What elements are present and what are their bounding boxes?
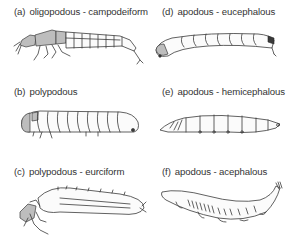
hemicephalous-larva-illustration xyxy=(148,98,295,158)
panel-b-polypodous: (b)polypodous xyxy=(0,80,147,160)
panel-label: (f)apodous - acephalous xyxy=(162,166,267,177)
panel-c-eurciform: (c)polypodous - eurciform xyxy=(0,160,147,240)
panel-e-hemicephalous: (e)apodous - hemicephalous xyxy=(148,80,295,160)
panel-label: (a)oligopodous - campodeiform xyxy=(14,6,148,17)
eurciform-larva-illustration xyxy=(0,178,147,238)
panel-a-campodeiform: (a)oligopodous - campodeiform xyxy=(0,0,147,80)
panel-label: (c)polypodous - eurciform xyxy=(14,166,124,177)
panel-label: (b)polypodous xyxy=(14,86,78,97)
panel-d-eucephalous: (d)apodous - eucephalous xyxy=(148,0,295,80)
panel-label: (d)apodous - eucephalous xyxy=(162,6,275,17)
campodeiform-larva-illustration xyxy=(0,18,147,78)
acephalous-larva-illustration xyxy=(148,178,295,238)
eucephalous-larva-illustration xyxy=(148,18,295,78)
polypodous-larva-illustration xyxy=(0,98,147,158)
panel-f-acephalous: (f)apodous - acephalous xyxy=(148,160,295,240)
panel-label: (e)apodous - hemicephalous xyxy=(162,86,285,97)
